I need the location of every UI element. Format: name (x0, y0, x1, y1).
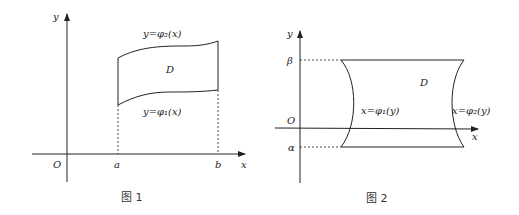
fig2-alpha-label: α (288, 142, 295, 153)
fig2-origin-label: O (287, 115, 295, 126)
fig1-upper-curve-label: y=φ₂(x) (142, 28, 182, 39)
fig2-left-curve-label: x=φ₁(y) (361, 105, 400, 116)
fig2-region-boundary (341, 60, 464, 147)
fig2-x-label: x (472, 131, 478, 142)
fig1-a-label: a (114, 159, 120, 170)
fig1-x-label: x (241, 159, 247, 170)
fig2-caption: 图 2 (366, 192, 388, 205)
figure-2: y x O β α D x=φ₁(y) x=φ₂(y) 图 2 (275, 28, 491, 205)
figure-1: y x O a b D y=φ₂(x) y=φ₁(x) 图 1 (32, 11, 247, 204)
fig2-beta-label: β (286, 55, 293, 66)
fig1-b-label: b (215, 159, 221, 170)
fig1-region-label: D (165, 64, 174, 75)
fig2-right-curve-label: x=φ₂(y) (452, 105, 491, 116)
fig1-lower-curve-label: y=φ₁(x) (142, 106, 182, 117)
fig2-region-label: D (419, 77, 428, 88)
diagram-canvas: y x O a b D y=φ₂(x) y=φ₁(x) 图 1 y x O β … (0, 0, 519, 215)
fig1-y-label: y (52, 11, 59, 22)
fig2-x-axis (275, 128, 478, 129)
fig2-y-label: y (286, 28, 293, 39)
fig1-origin-label: O (53, 159, 61, 170)
fig1-caption: 图 1 (121, 191, 143, 204)
